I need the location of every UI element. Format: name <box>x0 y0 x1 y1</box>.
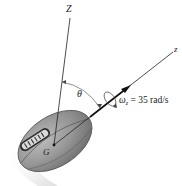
football-spin-diagram: Z z θ ωz = 35 rad/s G <box>0 0 182 186</box>
center-of-mass-point <box>53 144 56 147</box>
G-label: G <box>43 147 50 157</box>
rotation-arrowhead-icon <box>113 103 117 108</box>
theta-arrow-top <box>62 80 66 84</box>
theta-label: θ <box>77 88 82 99</box>
Z-axis-label: Z <box>66 3 72 14</box>
omega-label: ωz = 35 rad/s <box>119 95 169 106</box>
z-axis-label: z <box>173 44 178 54</box>
